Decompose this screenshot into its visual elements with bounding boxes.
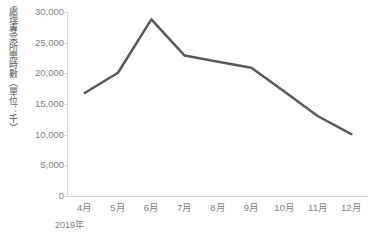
plot-area xyxy=(68,12,368,196)
series-line-svg xyxy=(68,12,368,196)
y-axis-tick-label: 10,000 xyxy=(20,130,64,140)
y-axis-tick-label: 25,000 xyxy=(20,38,64,48)
y-axis-tick-mark xyxy=(63,165,67,166)
y-axis-tick-mark xyxy=(63,196,67,197)
y-axis-tick-mark xyxy=(63,73,67,74)
y-axis-tick-label: 30,000 xyxy=(20,7,64,17)
y-axis-tick-mark xyxy=(63,104,67,105)
y-axis-tick-label: 15,000 xyxy=(20,99,64,109)
y-axis-tick-mark xyxy=(63,135,67,136)
x-axis-line xyxy=(67,196,368,197)
series-polyline xyxy=(85,19,352,134)
y-axis-tick-label: 20,000 xyxy=(20,68,64,78)
y-axis-tick-mark xyxy=(63,12,67,13)
x-axis-title: 2019年 xyxy=(55,220,84,231)
line-chart: 處理專案所需時數（單位：千） 05,00010,00015,00020,0002… xyxy=(0,0,391,242)
y-axis-title: 處理專案所需時數（單位：千） xyxy=(2,6,18,156)
y-axis-tick-label: 5,000 xyxy=(20,160,64,170)
y-axis-tick-label: 0 xyxy=(20,191,64,201)
y-axis-tick-mark xyxy=(63,43,67,44)
y-axis-tick-label-group: 05,00010,00015,00020,00025,00030,000 xyxy=(18,0,64,242)
x-axis-tick-label: 12月 xyxy=(331,202,371,214)
x-axis-tick-label-group: 4月5月6月7月8月9月10月11月12月 xyxy=(68,202,368,216)
